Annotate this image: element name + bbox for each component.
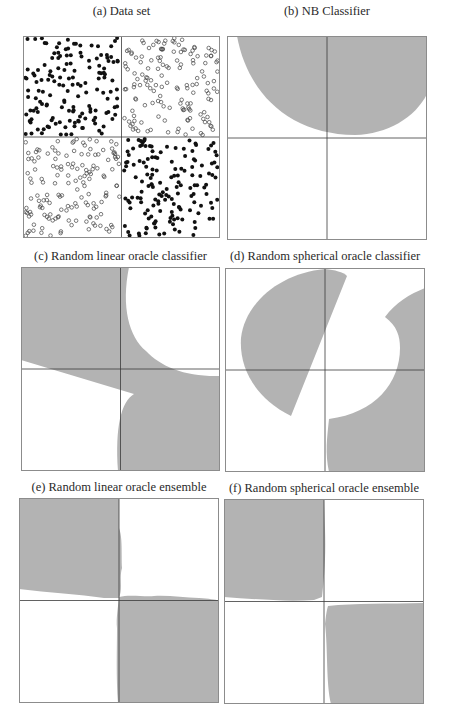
decision-region [224,499,325,601]
subfigure-caption: (f) Random spherical oracle ensemble [224,481,424,496]
plot-area-f [224,499,424,704]
subfigure-panel-f: (f) Random spherical oracle ensemble [0,0,449,716]
decision-region [325,603,424,704]
